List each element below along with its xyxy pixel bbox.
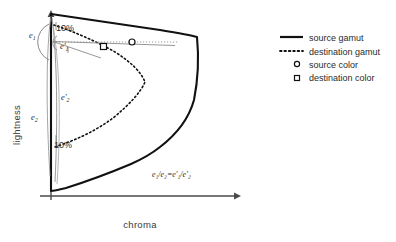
axis-titles-group: lightness chroma [11, 105, 157, 230]
open-circle-icon [294, 61, 299, 66]
color-markers-group [101, 39, 136, 50]
destination-color-marker [101, 44, 107, 50]
legend-label-source-color: source color [309, 60, 358, 70]
legend-label-destination-color: destination color [309, 73, 375, 83]
label-e2: e2 [31, 112, 38, 123]
label-e1: e1 [29, 30, 36, 41]
legend-label-source-gamut: source gamut [309, 33, 364, 43]
label-e1-prime: e'1 [60, 41, 69, 52]
label-10pct-bottom: 10% [54, 140, 72, 150]
source-color-marker [129, 39, 135, 45]
x-axis-arrow-icon [234, 193, 241, 200]
source-gamut-shape [51, 14, 198, 191]
gamut-mapping-figure: 10% 10% e1 e2 e'1 e'2 e₁/e₂=e′₁/e′₂ ligh… [0, 0, 396, 242]
y-axis-title: lightness [11, 105, 22, 145]
label-10pct-top: 10% [56, 23, 74, 33]
legend: source gamut destination gamut source co… [280, 33, 381, 84]
legend-item-source-color[interactable]: source color [294, 60, 358, 70]
legend-item-destination-gamut[interactable]: destination gamut [280, 47, 381, 57]
legend-label-destination-gamut: destination gamut [309, 47, 381, 57]
label-e2-prime: e'2 [61, 92, 70, 103]
open-square-icon [295, 76, 300, 81]
axes-group [40, 10, 241, 200]
source-gamut-outline [51, 14, 198, 191]
ratio-formula: e₁/e₂=e′₁/e′₂ [152, 170, 191, 179]
legend-item-destination-color[interactable]: destination color [295, 73, 375, 83]
legend-item-source-gamut[interactable]: source gamut [280, 33, 364, 43]
x-axis-title: chroma [123, 219, 157, 230]
